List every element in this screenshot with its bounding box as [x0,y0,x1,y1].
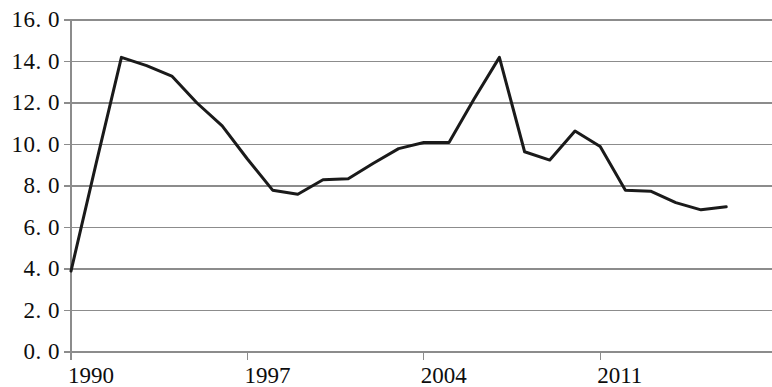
y-tick-label: 14. 0 [12,50,61,73]
data-series-group [71,57,726,271]
y-tick-label: 16. 0 [12,8,61,31]
y-tick-label: 8. 0 [24,174,61,197]
line-chart: 0. 02. 04. 06. 08. 010. 012. 014. 016. 0… [0,0,772,387]
y-tick-label: 6. 0 [24,216,61,239]
x-tick-label: 2004 [421,364,467,387]
y-tick-label: 12. 0 [12,91,61,114]
data-line [71,57,726,271]
y-tick-marks-group [64,20,71,352]
y-tick-label: 4. 0 [24,257,61,280]
y-tick-label: 10. 0 [12,133,61,156]
y-tick-label: 0. 0 [24,340,61,363]
x-tick-label: 1997 [244,364,290,387]
chart-canvas [0,0,772,387]
x-tick-marks-group [71,352,600,360]
x-tick-label: 2011 [597,364,642,387]
y-tick-label: 2. 0 [24,299,61,322]
x-tick-label: 1990 [68,364,114,387]
gridlines-group [71,20,772,352]
